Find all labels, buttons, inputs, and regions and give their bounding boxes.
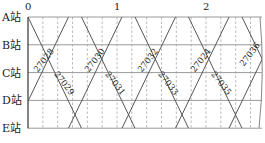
- train-diagram: A站B站C站D站E站012270282703027032270242703627…: [0, 0, 265, 143]
- station-label: D站: [2, 93, 22, 107]
- down-train-label: 27035: [209, 69, 234, 96]
- time-tick-label: 0: [25, 1, 31, 12]
- time-tick-label: 2: [203, 1, 209, 12]
- up-train-label: 27030: [82, 46, 107, 73]
- station-label: E站: [2, 121, 21, 135]
- station-label: C站: [2, 66, 21, 80]
- diagram-canvas: A站B站C站D站E站012270282703027032270242703627…: [0, 0, 265, 143]
- time-tick-label: 1: [114, 1, 120, 12]
- down-train-label: 27033: [156, 69, 181, 96]
- station-label: A站: [1, 10, 21, 24]
- station-label: B站: [2, 38, 21, 52]
- down-train-label: 27031: [103, 69, 128, 96]
